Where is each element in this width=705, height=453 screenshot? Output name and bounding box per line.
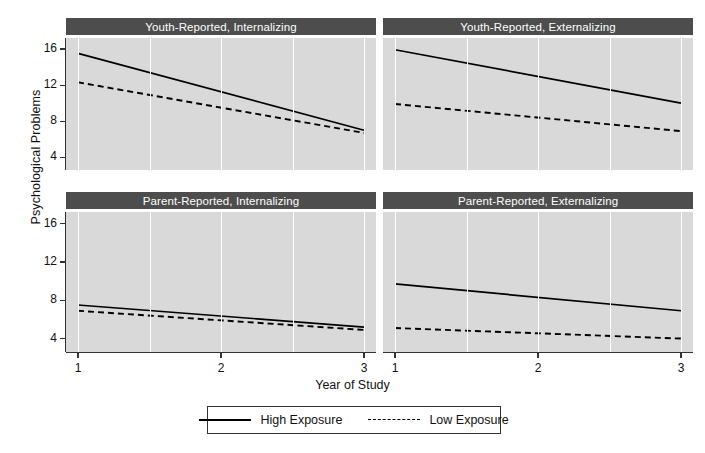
- legend-item-low-exposure: Low Exposure: [368, 413, 508, 427]
- y-tick-label: 4: [17, 331, 57, 345]
- gridline-vertical: [538, 212, 539, 352]
- x-axis-left-column: 123: [66, 352, 376, 378]
- x-tick-label: 2: [518, 361, 558, 375]
- y-tick-label: 12: [17, 77, 57, 91]
- x-tick-mark: [537, 352, 538, 358]
- x-axis-title: Year of Study: [0, 378, 705, 392]
- solid-line-key-icon: [199, 414, 251, 426]
- y-tick-label: 4: [17, 149, 57, 163]
- plot-area: [66, 212, 376, 352]
- y-axis-tick: 8: [36, 121, 66, 122]
- gridline-vertical: [467, 38, 468, 170]
- facet-panel-youth-internalizing: Youth-Reported, Internalizing: [66, 18, 376, 170]
- gridline-vertical: [221, 38, 222, 170]
- x-tick-mark: [394, 352, 395, 358]
- facet-strip-label: Youth-Reported, Externalizing: [383, 18, 693, 35]
- gridline-vertical: [150, 212, 151, 352]
- plot-area: [383, 212, 693, 352]
- legend-item-high-exposure: High Exposure: [199, 413, 342, 427]
- y-axis-top-row: 481216: [36, 38, 66, 170]
- x-tick-mark: [220, 352, 221, 358]
- y-tick-label: 16: [17, 41, 57, 55]
- gridline-vertical: [221, 212, 222, 352]
- x-tick-mark: [77, 352, 78, 358]
- gridline-vertical: [610, 38, 611, 170]
- y-axis-tick: 4: [36, 339, 66, 340]
- facet-line-chart: Psychological Problems Year of Study 481…: [0, 0, 705, 453]
- x-tick-label: 3: [661, 361, 701, 375]
- y-tick-label: 12: [17, 254, 57, 268]
- facet-strip-label: Parent-Reported, Internalizing: [66, 192, 376, 209]
- gridline-vertical: [364, 38, 365, 170]
- y-axis-tick: 8: [36, 300, 66, 301]
- gridline-vertical: [293, 38, 294, 170]
- gridline-vertical: [467, 212, 468, 352]
- gridline-vertical: [78, 212, 79, 352]
- plot-area: [383, 38, 693, 170]
- x-axis-right-column: 123: [383, 352, 693, 378]
- x-tick-label: 1: [58, 361, 98, 375]
- x-tick-mark: [680, 352, 681, 358]
- dashed-line-key-icon: [368, 414, 420, 426]
- gridline-vertical: [395, 212, 396, 352]
- facet-panel-parent-internalizing: Parent-Reported, Internalizing: [66, 192, 376, 352]
- y-axis-tick: 16: [36, 49, 66, 50]
- legend-label: Low Exposure: [429, 413, 508, 427]
- facet-strip-label: Youth-Reported, Internalizing: [66, 18, 376, 35]
- y-axis-tick: 4: [36, 157, 66, 158]
- facet-panel-parent-externalizing: Parent-Reported, Externalizing: [383, 192, 693, 352]
- x-tick-mark: [363, 352, 364, 358]
- y-axis-bottom-row: 481216: [36, 212, 66, 352]
- gridline-vertical: [681, 38, 682, 170]
- gridline-vertical: [681, 212, 682, 352]
- y-axis-tick: 16: [36, 224, 66, 225]
- x-tick-label: 2: [201, 361, 241, 375]
- plot-area: [66, 38, 376, 170]
- gridline-vertical: [78, 38, 79, 170]
- y-axis-tick: 12: [36, 262, 66, 263]
- y-tick-label: 8: [17, 292, 57, 306]
- gridline-vertical: [610, 212, 611, 352]
- gridline-vertical: [293, 212, 294, 352]
- facet-panel-youth-externalizing: Youth-Reported, Externalizing: [383, 18, 693, 170]
- gridline-vertical: [150, 38, 151, 170]
- legend: High Exposure Low Exposure: [207, 406, 501, 434]
- gridline-vertical: [538, 38, 539, 170]
- x-tick-label: 1: [375, 361, 415, 375]
- gridline-vertical: [395, 38, 396, 170]
- gridline-vertical: [364, 212, 365, 352]
- legend-label: High Exposure: [260, 413, 342, 427]
- y-axis-tick: 12: [36, 85, 66, 86]
- y-tick-label: 8: [17, 113, 57, 127]
- facet-strip-label: Parent-Reported, Externalizing: [383, 192, 693, 209]
- y-tick-label: 16: [17, 216, 57, 230]
